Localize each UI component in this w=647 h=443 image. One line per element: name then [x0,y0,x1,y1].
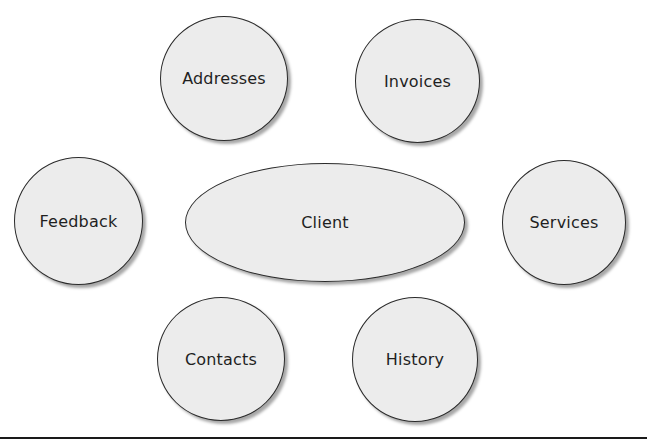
node-label-feedback: Feedback [40,212,118,231]
node-client: Client [185,163,465,282]
node-history: History [352,297,478,422]
node-addresses: Addresses [160,16,288,141]
node-label-client: Client [301,213,349,232]
node-label-contacts: Contacts [185,350,257,369]
node-label-addresses: Addresses [182,69,266,88]
node-services: Services [502,160,626,285]
entity-diagram: Addresses Invoices Feedback Client Servi… [0,0,647,443]
node-label-invoices: Invoices [384,72,451,91]
node-invoices: Invoices [355,19,480,143]
bottom-rule-divider [0,437,647,439]
node-label-history: History [386,350,444,369]
node-label-services: Services [529,213,598,232]
node-feedback: Feedback [14,157,143,285]
node-contacts: Contacts [157,297,285,421]
